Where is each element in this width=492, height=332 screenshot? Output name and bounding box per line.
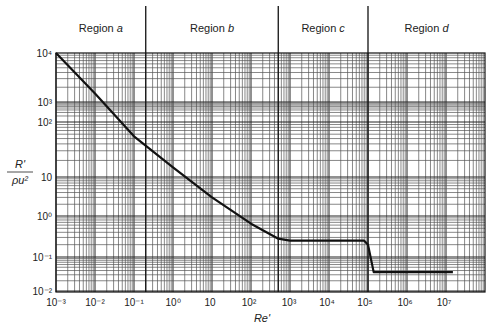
x-tick-label: 10⁶ [397, 297, 412, 308]
region-label-d: Region d [404, 22, 449, 34]
region-label-c: Region c [301, 22, 345, 34]
x-tick-label: 10³ [282, 297, 297, 308]
y-tick-label: 10⁴ [37, 48, 52, 59]
region-dividers [146, 6, 368, 292]
y-tick-label: 10 [41, 172, 53, 183]
y-tick-label: 10³ [38, 97, 53, 108]
x-tick-label: 10⁰ [165, 297, 180, 308]
y-axis-title-numerator: R' [15, 158, 26, 170]
x-tick-label: 10⁷ [437, 297, 452, 308]
x-tick-label: 10² [242, 297, 257, 308]
x-tick-label: 10⁻³ [46, 297, 66, 308]
y-tick-label: 10⁰ [37, 211, 52, 222]
y-tick-label: 10² [38, 117, 53, 128]
data-curve [56, 53, 453, 272]
y-axis-title: R' ρu² [7, 158, 33, 186]
grid-lines [56, 53, 485, 292]
x-axis-tick-labels: 10⁻³10⁻²10⁻¹10⁰1010²10³10⁴10⁵10⁶10⁷ [46, 297, 451, 308]
region-labels: Region aRegion bRegion cRegion d [79, 22, 450, 34]
x-tick-label: 10⁻² [85, 297, 105, 308]
x-tick-label: 10⁻¹ [124, 297, 144, 308]
x-tick-label: 10⁴ [319, 297, 334, 308]
region-label-b: Region b [190, 22, 234, 34]
x-tick-label: 10 [204, 297, 216, 308]
y-tick-label: 10⁻² [33, 286, 53, 297]
x-tick-label: 10⁵ [357, 297, 372, 308]
y-axis-title-denominator: ρu² [11, 174, 28, 186]
x-axis-title: Re' [254, 312, 271, 324]
region-label-a: Region a [79, 22, 123, 34]
plot-area [56, 53, 485, 292]
chart: Region aRegion bRegion cRegion d 10⁻³10⁻… [0, 0, 492, 332]
y-tick-label: 10⁻¹ [33, 252, 53, 263]
y-axis-tick-labels: 10⁴10³10²1010⁰10⁻¹10⁻² [33, 48, 53, 297]
